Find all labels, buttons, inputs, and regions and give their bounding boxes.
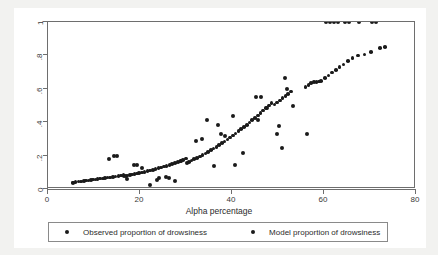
data-point: [216, 123, 220, 127]
data-point: [283, 76, 287, 80]
data-point: [93, 187, 97, 188]
data-point: [383, 45, 387, 49]
x-axis-tick: [231, 190, 232, 194]
chart-page: 0.2.4.6.81 020406080 Alpha percentage Ob…: [0, 0, 438, 255]
data-point: [320, 187, 324, 188]
data-point: [356, 54, 360, 58]
data-point: [336, 21, 340, 24]
data-point: [233, 163, 237, 167]
data-point: [342, 63, 346, 67]
data-point: [280, 146, 284, 150]
data-point: [289, 90, 293, 94]
data-point: [347, 21, 351, 24]
data-point: [254, 95, 258, 99]
x-axis-tick-label: 80: [411, 195, 420, 204]
data-point: [291, 104, 295, 108]
data-point: [259, 95, 263, 99]
chart-legend: Observed proportion of drowsiness Model …: [48, 222, 388, 242]
data-point: [305, 132, 309, 136]
x-axis-tick-label: 60: [319, 195, 328, 204]
data-point: [212, 164, 216, 168]
data-point: [369, 50, 373, 54]
data-point: [135, 163, 139, 167]
data-point: [88, 187, 92, 188]
data-point: [194, 139, 198, 143]
x-axis-tick-label: 40: [227, 195, 236, 204]
data-point: [346, 59, 350, 63]
data-point: [363, 53, 367, 57]
x-axis-tick: [323, 190, 324, 194]
data-point: [378, 46, 382, 50]
data-point: [107, 157, 111, 161]
data-point: [327, 74, 331, 78]
legend-marker-icon: [251, 230, 255, 234]
data-point: [351, 56, 355, 60]
x-axis-tick: [47, 190, 48, 194]
legend-label-model: Model proportion of drowsiness: [269, 228, 380, 237]
data-point: [79, 187, 83, 188]
data-point: [71, 187, 75, 188]
x-axis-tick-label: 20: [135, 195, 144, 204]
data-point: [323, 76, 327, 80]
data-point: [97, 187, 101, 188]
data-point: [277, 124, 281, 128]
plot-area: [47, 21, 415, 188]
data-point: [173, 179, 177, 183]
data-point: [357, 21, 361, 24]
data-point: [205, 118, 209, 122]
legend-entry-observed: Observed proportion of drowsiness: [65, 228, 207, 237]
data-point: [334, 68, 338, 72]
data-point: [200, 137, 204, 141]
data-point: [148, 183, 152, 187]
data-point: [231, 114, 235, 118]
legend-label-observed: Observed proportion of drowsiness: [83, 228, 207, 237]
legend-marker-icon: [65, 230, 69, 234]
data-point: [241, 151, 245, 155]
x-axis-tick-label: 0: [45, 195, 49, 204]
data-point: [275, 132, 279, 136]
x-axis-title: Alpha percentage: [0, 206, 438, 216]
data-point: [84, 187, 88, 188]
data-point: [374, 21, 378, 24]
data-point: [167, 176, 171, 180]
data-point: [157, 176, 161, 180]
data-point: [115, 154, 119, 158]
data-point: [319, 79, 323, 83]
data-point: [338, 65, 342, 69]
x-axis-tick: [415, 190, 416, 194]
x-axis-tick: [139, 190, 140, 194]
legend-entry-model: Model proportion of drowsiness: [251, 228, 380, 237]
